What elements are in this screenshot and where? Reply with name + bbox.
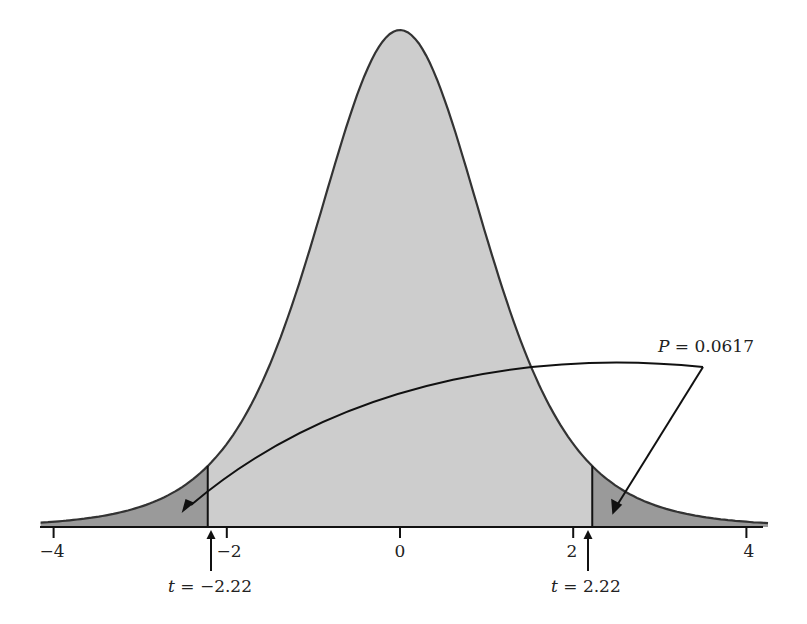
tick-label-neg2: −2: [216, 541, 241, 561]
p-value-label: P = 0.0617: [657, 336, 754, 356]
tick-label-neg4: −4: [39, 541, 64, 561]
tick-label-4: 4: [744, 541, 755, 561]
shaded-areas: [41, 30, 768, 527]
right-tail-area: [592, 466, 768, 527]
t-left-label: t = −2.22: [168, 576, 252, 596]
left-tail-area: [41, 466, 208, 527]
critical-arrow-left: [207, 530, 216, 571]
t-distribution-chart: −4 −2 0 2 4 t = −2.22 t = 2.22 P = 0.061…: [0, 0, 807, 624]
critical-arrow-right: [584, 530, 593, 571]
arrow-to-right-tail: [616, 367, 703, 507]
t-right-label: t = 2.22: [551, 576, 621, 596]
x-axis-ticks: [54, 527, 747, 538]
tick-label-2: 2: [567, 541, 578, 561]
tick-label-0: 0: [395, 541, 406, 561]
